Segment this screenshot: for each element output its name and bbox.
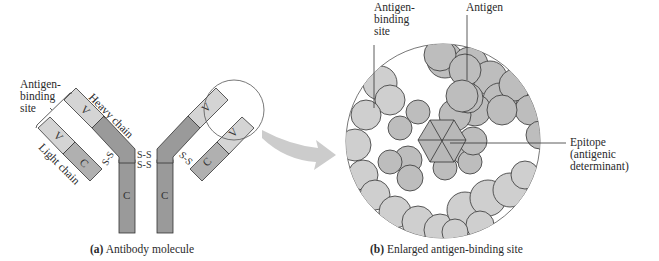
caption-a-text: Antibody molecule — [103, 243, 194, 256]
antigen-binding-site-label-a-line3: site — [20, 102, 36, 114]
left-heavy-c-label: C — [123, 189, 130, 201]
caption-b-text: Enlarged antigen-binding site — [384, 243, 523, 256]
caption-a: (a) Antibody molecule — [90, 243, 194, 256]
epitope-label-line3: determinant) — [570, 160, 629, 173]
caption-b: (b) Enlarged antigen-binding site — [370, 243, 523, 256]
curved-arrow-icon — [262, 130, 336, 170]
left-light-disulfide: S-S — [99, 149, 116, 167]
right-light-disulfide: S-S — [177, 149, 195, 167]
disulfide-bond-lower: S-S — [137, 159, 151, 170]
antigen-label: Antigen — [466, 1, 503, 14]
caption-b-letter: (b) — [370, 243, 384, 256]
antibody-figure: V V C C C V V C S-S S-S S-S S-S Heavy ch… — [0, 0, 659, 261]
enlarged-binding-site: Antigen- binding site Antigen Epitope (a… — [339, 1, 629, 246]
antigen-binding-site-label-b-line3: site — [374, 25, 390, 37]
caption-a-letter: (a) — [90, 243, 104, 256]
right-heavy-c-label: C — [161, 189, 168, 201]
antibody-molecule: V V C C C V V C S-S S-S S-S S-S Heavy ch… — [20, 78, 264, 233]
